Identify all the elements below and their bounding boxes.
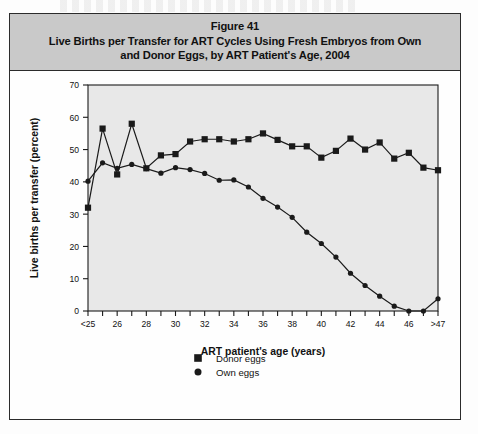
y-tick-label-10: 10 <box>69 274 79 284</box>
point-donor-eggs-47 <box>420 164 426 170</box>
point-own-eggs-44 <box>377 293 382 298</box>
point-donor-eggs-46 <box>406 149 412 155</box>
legend-marker-donor-eggs <box>194 354 202 362</box>
point-own-eggs-35 <box>246 184 251 189</box>
point-donor-eggs-25 <box>99 125 105 131</box>
line-chart: 010203040506070<252628303234363840424446… <box>10 71 460 393</box>
point-own-eggs->47 <box>435 296 440 301</box>
x-tick-label-26: 26 <box>112 319 122 329</box>
x-tick-label-34: 34 <box>229 319 239 329</box>
x-tick-label-<25: <25 <box>81 319 96 329</box>
point-donor-eggs-32 <box>202 136 208 142</box>
point-donor-eggs-42 <box>347 135 353 141</box>
point-donor-eggs-31 <box>187 138 193 144</box>
point-own-eggs-36 <box>260 195 265 200</box>
figure-title-line-1: Live Births per Transfer for ART Cycles … <box>20 34 450 48</box>
y-tick-label-40: 40 <box>69 177 79 187</box>
point-own-eggs-42 <box>348 270 353 275</box>
scan-artifact <box>60 0 360 12</box>
point-donor-eggs-35 <box>245 136 251 142</box>
point-donor-eggs-37 <box>274 136 280 142</box>
point-donor-eggs-33 <box>216 136 222 142</box>
x-tick-label-30: 30 <box>171 319 181 329</box>
point-own-eggs-40 <box>319 241 324 246</box>
x-tick-label-44: 44 <box>375 319 385 329</box>
x-tick-label-32: 32 <box>200 319 210 329</box>
y-tick-label-30: 30 <box>69 209 79 219</box>
point-donor-eggs-27 <box>129 120 135 126</box>
y-tick-label-50: 50 <box>69 145 79 155</box>
point-own-eggs-32 <box>202 170 207 175</box>
y-tick-label-60: 60 <box>69 112 79 122</box>
point-own-eggs-26 <box>115 165 120 170</box>
figure-number: Figure 41 <box>20 19 450 33</box>
point-own-eggs-45 <box>392 303 397 308</box>
point-donor-eggs-45 <box>391 155 397 161</box>
point-own-eggs-46 <box>406 308 411 313</box>
point-own-eggs-29 <box>158 170 163 175</box>
point-donor-eggs-38 <box>289 143 295 149</box>
x-tick-label-40: 40 <box>317 319 327 329</box>
x-tick-label-28: 28 <box>142 319 152 329</box>
point-donor-eggs-<25 <box>85 204 91 210</box>
chart-area: 010203040506070<252628303234363840424446… <box>10 71 460 393</box>
point-own-eggs-43 <box>362 283 367 288</box>
point-donor-eggs-41 <box>333 147 339 153</box>
point-own-eggs-<25 <box>85 178 90 183</box>
x-tick-label-36: 36 <box>258 319 268 329</box>
point-own-eggs-38 <box>290 214 295 219</box>
y-axis-title: Live births per transfer (percent) <box>29 117 40 278</box>
point-donor-eggs-26 <box>114 171 120 177</box>
legend-label-own-eggs: Own eggs <box>216 366 259 377</box>
point-own-eggs-37 <box>275 204 280 209</box>
figure-title-line-2: and Donor Eggs, by ART Patient's Age, 20… <box>20 48 450 62</box>
point-own-eggs-31 <box>187 167 192 172</box>
point-own-eggs-33 <box>217 177 222 182</box>
point-donor-eggs->47 <box>435 167 441 173</box>
point-donor-eggs-36 <box>260 130 266 136</box>
figure-container: Figure 41 Live Births per Transfer for A… <box>9 13 461 420</box>
x-tick-label-42: 42 <box>346 319 356 329</box>
point-donor-eggs-43 <box>362 146 368 152</box>
point-own-eggs-39 <box>304 229 309 234</box>
figure-title-band: Figure 41 Live Births per Transfer for A… <box>10 14 460 71</box>
point-own-eggs-27 <box>129 161 134 166</box>
x-tick-label-46: 46 <box>404 319 414 329</box>
y-tick-label-0: 0 <box>74 306 79 316</box>
point-donor-eggs-34 <box>231 138 237 144</box>
x-tick-label-38: 38 <box>287 319 297 329</box>
point-donor-eggs-39 <box>304 143 310 149</box>
point-own-eggs-28 <box>144 166 149 171</box>
y-tick-label-20: 20 <box>69 241 79 251</box>
page-root: Figure 41 Live Births per Transfer for A… <box>0 0 478 434</box>
legend-label-donor-eggs: Donor eggs <box>216 352 266 363</box>
point-donor-eggs-44 <box>377 139 383 145</box>
point-own-eggs-34 <box>231 177 236 182</box>
point-donor-eggs-29 <box>158 152 164 158</box>
point-donor-eggs-30 <box>172 151 178 157</box>
point-own-eggs-30 <box>173 165 178 170</box>
y-tick-label-70: 70 <box>69 80 79 90</box>
point-donor-eggs-40 <box>318 154 324 160</box>
point-own-eggs-41 <box>333 254 338 259</box>
point-own-eggs-47 <box>421 308 426 313</box>
legend-marker-own-eggs <box>195 368 202 375</box>
point-own-eggs-25 <box>100 160 105 165</box>
x-tick-label->47: >47 <box>431 319 446 329</box>
